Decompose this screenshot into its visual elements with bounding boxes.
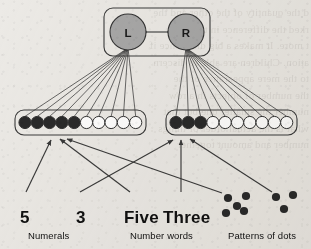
- input-label-numeral-five: 5: [20, 208, 30, 228]
- arrow-numeral-five: [26, 140, 51, 192]
- connection-line: [87, 48, 129, 116]
- connection-line: [186, 48, 262, 116]
- left-output-layer-unit-inactive: [80, 116, 92, 128]
- right-output-layer-unit-inactive: [268, 116, 280, 128]
- connection-line: [186, 48, 250, 116]
- left-output-layer-unit-inactive: [117, 116, 129, 128]
- connection-line: [186, 48, 225, 116]
- right-output-layer-unit-inactive: [281, 116, 293, 128]
- input-label-numeral-three: 3: [76, 208, 86, 228]
- right-output-layer-unit-active: [195, 116, 207, 128]
- left-output-layer-unit-active: [44, 116, 56, 128]
- hidden-to-output-connections: [25, 48, 287, 116]
- left-output-layer-unit-active: [19, 116, 31, 128]
- connection-line: [176, 48, 186, 116]
- left-output-layer-unit-active: [56, 116, 68, 128]
- caption-patterns-of-dots: Patterns of dots: [228, 230, 296, 241]
- connection-line: [50, 48, 128, 116]
- right-output-layer-unit-inactive: [231, 116, 243, 128]
- left-output-layer-unit-active: [68, 116, 80, 128]
- connection-line: [186, 48, 287, 116]
- arrow-dots-five: [67, 139, 222, 193]
- hidden-node-l-label: L: [124, 27, 131, 39]
- left-output-layer-unit-inactive: [105, 116, 117, 128]
- dots-five-dot: [233, 202, 241, 210]
- hidden-node-r-label: R: [182, 27, 191, 39]
- left-output-layer-unit-active: [31, 116, 43, 128]
- right-output-layer-unit-inactive: [207, 116, 219, 128]
- dots-five-dot: [224, 194, 232, 202]
- input-label-word-five: Five: [124, 208, 159, 228]
- arrow-dots-three: [190, 139, 272, 192]
- dots-five-dot: [222, 209, 230, 217]
- left-output-layer-unit-inactive: [93, 116, 105, 128]
- dots-three-dot: [272, 193, 280, 201]
- caption-number-words: Number words: [130, 230, 193, 241]
- figure-canvas: d the quantity of the other and the rked…: [0, 0, 311, 249]
- output-layer-units: [19, 116, 293, 128]
- dots-three-dot: [289, 191, 297, 199]
- right-output-layer-unit-active: [182, 116, 194, 128]
- right-output-layer-unit-inactive: [219, 116, 231, 128]
- right-output-layer-unit-inactive: [256, 116, 268, 128]
- caption-numerals: Numerals: [28, 230, 69, 241]
- dots-five-dot: [242, 192, 250, 200]
- dots-three-dot: [280, 205, 288, 213]
- left-output-layer-unit-inactive: [130, 116, 142, 128]
- input-label-word-three: Three: [163, 208, 210, 228]
- input-arrows: [26, 139, 272, 193]
- connection-line: [25, 48, 128, 116]
- right-output-layer-unit-active: [170, 116, 182, 128]
- connection-line: [62, 48, 128, 116]
- connection-line: [128, 48, 136, 116]
- input-dot-patterns: [222, 191, 297, 217]
- right-output-layer-unit-inactive: [244, 116, 256, 128]
- dots-five-dot: [240, 207, 248, 215]
